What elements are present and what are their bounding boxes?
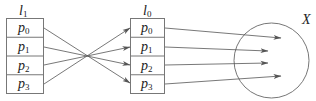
left-item-p1: p1 xyxy=(17,39,30,55)
list-mapping-diagram: l1 p0 p1 p2 p3 l0 p0 p1 p2 p3 X xyxy=(0,0,316,101)
set-label: X xyxy=(301,12,311,27)
left-list: l1 p0 p1 p2 p3 xyxy=(7,3,44,94)
left-list-label: l1 xyxy=(19,3,27,19)
set-circle xyxy=(234,23,309,98)
arrow-p0-to-x xyxy=(165,28,281,38)
arrow-p1-to-x xyxy=(165,47,268,51)
left-item-p3: p3 xyxy=(17,76,30,92)
set-arrows xyxy=(165,28,281,84)
right-list: l0 p0 p1 p2 p3 xyxy=(131,3,165,94)
set-x: X xyxy=(234,12,311,98)
crossing-arrows xyxy=(44,28,130,84)
left-item-p0: p0 xyxy=(17,20,30,36)
right-item-p3: p3 xyxy=(140,76,153,92)
right-list-label: l0 xyxy=(143,3,152,19)
arrow-p2-to-x xyxy=(165,63,268,65)
right-item-p2: p2 xyxy=(140,58,153,74)
left-item-p2: p2 xyxy=(17,58,30,74)
right-item-p1: p1 xyxy=(140,39,153,55)
right-item-p0: p0 xyxy=(140,20,153,36)
arrow-p3-to-x xyxy=(165,76,281,84)
